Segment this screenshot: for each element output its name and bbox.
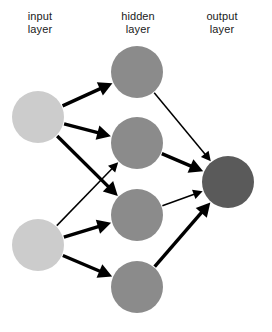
edge-line: [63, 88, 101, 105]
node-h1: [111, 46, 163, 98]
edge-i1-to-h2: [64, 124, 111, 140]
edge-h2-to-o1: [162, 154, 203, 173]
edge-i1-to-h1: [63, 82, 113, 106]
arrowhead-icon: [96, 126, 111, 140]
nodes-group: [12, 46, 254, 313]
neural-network-diagram: input layer hidden layer output layer: [0, 0, 272, 332]
network-canvas: [0, 0, 272, 332]
arrowhead-icon: [201, 151, 211, 161]
edge-line: [64, 226, 99, 237]
edge-line: [162, 194, 194, 206]
edge-h4-to-o1: [155, 202, 211, 266]
input-layer-label: input layer: [8, 10, 72, 35]
edge-line: [64, 124, 99, 133]
node-i1: [12, 91, 64, 143]
edge-line: [162, 154, 192, 167]
node-i2: [12, 219, 64, 271]
edges-group: [57, 82, 211, 278]
output-layer-label: output layer: [190, 10, 254, 35]
edge-h3-to-o1: [162, 190, 202, 206]
arrowhead-icon: [96, 220, 111, 234]
edge-line: [63, 256, 101, 272]
edge-i2-to-h3: [64, 220, 111, 237]
edge-i2-to-h4: [63, 256, 112, 278]
node-h4: [111, 261, 163, 313]
node-h2: [111, 117, 163, 169]
edge-h1-to-o1: [154, 93, 211, 161]
edge-i2-to-h2: [57, 162, 118, 225]
node-o1: [202, 156, 254, 208]
edge-line: [57, 168, 113, 225]
hidden-layer-label: hidden layer: [106, 10, 170, 35]
node-h3: [111, 189, 163, 241]
